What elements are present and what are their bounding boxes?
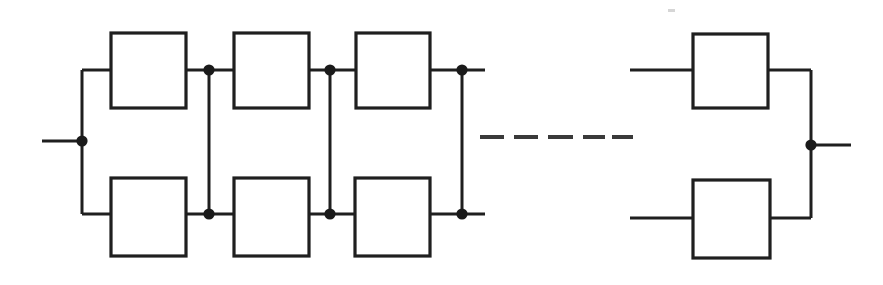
node-junction-n-b3 xyxy=(456,208,467,219)
block-outline xyxy=(693,180,770,258)
block-b-tn[interactable] xyxy=(693,34,768,108)
block-b-t2[interactable] xyxy=(234,33,309,108)
scan-artifact-speck xyxy=(668,9,675,12)
node-junction-n-t3 xyxy=(456,64,467,75)
block-b-t3[interactable] xyxy=(356,33,430,108)
node-junction-n-t2 xyxy=(324,64,335,75)
diagram-canvas xyxy=(0,0,883,285)
block-outline xyxy=(693,34,768,108)
node-junction-n-b2 xyxy=(324,208,335,219)
block-outline xyxy=(234,178,309,256)
block-outline xyxy=(356,33,430,108)
block-diagram-svg xyxy=(0,0,883,285)
block-b-bn[interactable] xyxy=(693,180,770,258)
node-junction-n-b1 xyxy=(203,208,214,219)
block-outline xyxy=(111,33,186,108)
block-outline xyxy=(111,178,186,256)
node-junction-n-t1 xyxy=(203,64,214,75)
node-output-terminal-n-output xyxy=(805,139,816,150)
block-b-b1[interactable] xyxy=(111,178,186,256)
block-outline xyxy=(355,178,430,256)
block-outline xyxy=(234,33,309,108)
artifact-layer xyxy=(668,9,675,12)
node-input-terminal-n-input xyxy=(76,135,87,146)
block-b-b2[interactable] xyxy=(234,178,309,256)
block-b-b3[interactable] xyxy=(355,178,430,256)
block-b-t1[interactable] xyxy=(111,33,186,108)
